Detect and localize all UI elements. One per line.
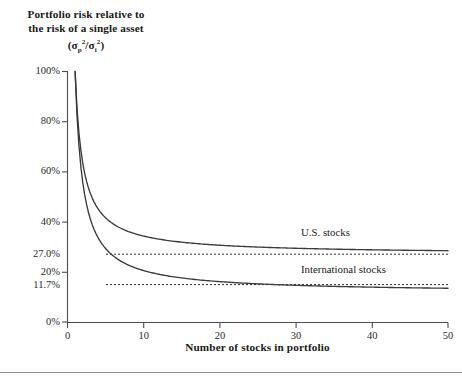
- y-tick-label-20: 20%: [4, 266, 60, 277]
- x-tick-label-20: 20: [200, 330, 240, 341]
- y-annotation-label-11-7: 11.7%: [4, 279, 60, 290]
- x-axis-title: Number of stocks in portfolio: [67, 341, 448, 353]
- plot-canvas: [0, 0, 462, 383]
- x-tick-label-40: 40: [352, 330, 392, 341]
- series-label-us-stocks: U.S. stocks: [301, 226, 350, 238]
- figure-bottom-rule: [0, 372, 462, 373]
- x-tick-label-50: 50: [428, 330, 462, 341]
- y-tick-label-100: 100%: [4, 65, 60, 76]
- y-annotation-label-27: 27.0%: [4, 248, 60, 259]
- series-curve-international-stocks: [75, 72, 448, 289]
- x-tick-label-30: 30: [276, 330, 316, 341]
- x-axis-ticks: [68, 323, 449, 329]
- y-tick-label-40: 40%: [4, 216, 60, 227]
- x-tick-label-10: 10: [124, 330, 164, 341]
- series-curve-us-stocks: [75, 72, 448, 251]
- y-axis-ticks: [62, 72, 68, 323]
- y-tick-label-80: 80%: [4, 115, 60, 126]
- y-tick-label-0: 0%: [4, 316, 60, 327]
- y-tick-label-60: 60%: [4, 165, 60, 176]
- series-label-international-stocks: International stocks: [301, 263, 386, 275]
- chart-figure: Portfolio risk relative to the risk of a…: [0, 0, 462, 383]
- x-tick-label-0: 0: [48, 330, 88, 341]
